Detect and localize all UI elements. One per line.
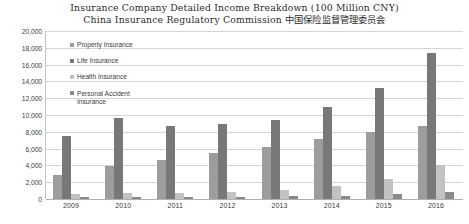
y-axis-tick-label: 18,000 bbox=[2, 44, 42, 51]
bar bbox=[332, 186, 341, 199]
x-axis-tick-label: 2009 bbox=[63, 202, 79, 209]
bar bbox=[105, 166, 114, 199]
legend-item[interactable]: Property Insurance bbox=[70, 41, 220, 49]
legend-item[interactable]: Life Insurance bbox=[70, 57, 220, 65]
bar bbox=[314, 139, 323, 200]
bar bbox=[436, 165, 445, 199]
chart-legend: Property InsuranceLife InsuranceHealth I… bbox=[70, 41, 220, 114]
chart-container: Insurance Company Detailed Income Breakd… bbox=[0, 0, 469, 224]
bar bbox=[384, 179, 393, 199]
legend-swatch-icon bbox=[70, 43, 74, 47]
y-axis-labels: 20,00018,00016,00014,00012,00010,0008,00… bbox=[0, 31, 42, 199]
chart-title: Insurance Company Detailed Income Breakd… bbox=[0, 2, 469, 25]
y-axis-tick-label: 20,000 bbox=[2, 28, 42, 35]
legend-swatch-icon bbox=[70, 75, 74, 79]
x-axis-tick-label: 2011 bbox=[168, 202, 183, 209]
bar bbox=[166, 126, 175, 199]
bar bbox=[123, 193, 132, 199]
bar bbox=[80, 197, 89, 199]
bar bbox=[323, 107, 332, 199]
chart-title-line-1: Insurance Company Detailed Income Breakd… bbox=[0, 2, 469, 14]
y-axis-tick-label: 12,000 bbox=[2, 95, 42, 102]
bar bbox=[271, 120, 280, 199]
x-axis-labels: 20092010201120122013201420152016 bbox=[45, 202, 462, 218]
bar-group bbox=[254, 31, 306, 199]
legend-swatch-icon bbox=[70, 59, 74, 63]
bar bbox=[114, 118, 123, 199]
y-axis-tick-label: 0 bbox=[2, 196, 42, 203]
bar bbox=[157, 160, 166, 199]
bar bbox=[71, 194, 80, 199]
bar bbox=[445, 192, 454, 199]
bar-group bbox=[410, 31, 462, 199]
bar-group bbox=[358, 31, 410, 199]
bar bbox=[418, 126, 427, 199]
bar bbox=[53, 175, 62, 199]
x-axis-tick-label: 2014 bbox=[324, 202, 340, 209]
bar bbox=[341, 196, 350, 199]
bar bbox=[262, 147, 271, 199]
bar bbox=[289, 196, 298, 199]
x-axis-tick-label: 2015 bbox=[376, 202, 392, 209]
bar bbox=[62, 136, 71, 199]
x-axis-tick-label: 2016 bbox=[428, 202, 444, 209]
bar bbox=[209, 153, 218, 199]
bar bbox=[236, 197, 245, 199]
y-axis-tick-label: 6,000 bbox=[2, 145, 42, 152]
bar bbox=[366, 132, 375, 199]
bar bbox=[280, 190, 289, 199]
legend-item[interactable]: Personal Accident Insurance bbox=[70, 90, 220, 106]
legend-label: Health Insurance bbox=[77, 73, 127, 81]
x-axis-tick-label: 2012 bbox=[219, 202, 235, 209]
y-axis-tick-label: 10,000 bbox=[2, 112, 42, 119]
bar bbox=[184, 197, 193, 199]
bar bbox=[393, 194, 402, 199]
gridline bbox=[46, 199, 463, 200]
bar bbox=[132, 197, 141, 199]
y-axis-tick-label: 14,000 bbox=[2, 78, 42, 85]
legend-label: Property Insurance bbox=[77, 41, 133, 49]
bar bbox=[427, 53, 436, 200]
chart-title-line-2: China Insurance Regulatory Commission 中国… bbox=[0, 14, 469, 26]
bar bbox=[218, 124, 227, 199]
y-axis-tick-label: 8,000 bbox=[2, 128, 42, 135]
bar bbox=[175, 193, 184, 199]
legend-swatch-icon bbox=[70, 91, 74, 95]
y-axis-tick-label: 2,000 bbox=[2, 179, 42, 186]
bar bbox=[227, 192, 236, 199]
legend-label: Personal Accident Insurance bbox=[77, 90, 130, 106]
y-axis-tick-label: 16,000 bbox=[2, 61, 42, 68]
bar-group bbox=[306, 31, 358, 199]
legend-label: Life Insurance bbox=[77, 57, 118, 65]
y-axis-tick-label: 4,000 bbox=[2, 162, 42, 169]
bar bbox=[375, 88, 384, 199]
x-axis-tick-label: 2013 bbox=[272, 202, 288, 209]
x-axis-tick-label: 2010 bbox=[115, 202, 131, 209]
legend-item[interactable]: Health Insurance bbox=[70, 73, 220, 81]
